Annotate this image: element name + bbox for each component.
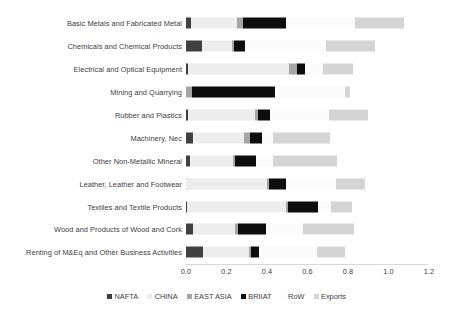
bar-row: Wood and Products of Wood and Cork [186,218,429,241]
stacked-bar [186,155,429,166]
bar-segment-row [259,247,317,258]
bar-segment-briiat [235,155,256,166]
plot-area: Basic Metals and Fabricated MetalChemica… [186,12,429,264]
stacked-bar [186,110,429,121]
bar-segment-briiat [251,247,260,258]
bar-segment-china [191,18,237,29]
legend-item-east-asia[interactable]: EAST ASIA [187,292,232,301]
bar-row: Other Non-Metallic Mineral [186,149,429,172]
bar-segment-china [188,64,289,75]
category-label: Wood and Products of Wood and Cork [54,225,182,234]
legend-label: BRIIAT [248,292,271,301]
legend-item-briiat[interactable]: BRIIAT [241,292,272,301]
category-label: Mining and Quarrying [110,88,182,97]
bar-segment-briiat [250,132,262,143]
bar-row: Textiles and Textile Products [186,195,429,218]
bar-segment-exports [331,201,352,212]
legend-swatch-icon [314,294,319,299]
x-axis-tick-labels: 0.00.20.40.60.81.01.2 [186,267,429,279]
stacked-bar-chart: Basic Metals and Fabricated MetalChemica… [0,0,453,319]
bar-segment-china [193,132,244,143]
bar-segment-row [245,41,326,52]
legend-swatch-icon [281,294,286,299]
category-label: Other Non-Metallic Mineral [93,156,182,165]
bar-segment-china [187,201,286,212]
bar-segment-china [202,41,231,52]
bar-segment-exports [303,224,354,235]
legend-item-row[interactable]: RoW [281,292,305,301]
bar-row: Rubber and Plastics [186,104,429,127]
legend-label: Exports [321,292,346,301]
bar-segment-china [188,110,255,121]
bar-row: Mining and Quarrying [186,81,429,104]
category-label: Renting of M&Eq and Other Business Activ… [26,248,182,257]
bar-row: Machinery, Nec [186,126,429,149]
bar-segment-exports [336,178,365,189]
x-tick-label: 0.8 [343,267,353,276]
category-label: Textiles and Textile Products [87,202,182,211]
bar-segment-briiat [288,201,318,212]
bar-segment-china [203,247,250,258]
stacked-bar [186,87,429,98]
bar-segment-row [262,132,273,143]
category-label: Chemicals and Chemical Products [67,42,182,51]
x-tick-label: 0.6 [302,267,312,276]
category-label: Rubber and Plastics [115,111,182,120]
x-tick-label: 0.2 [221,267,231,276]
bar-segment-briiat [192,87,275,98]
legend-swatch-icon [187,294,192,299]
bar-row: Chemicals and Chemical Products [186,35,429,58]
bar-segment-china [186,178,267,189]
bar-segment-exports [317,247,345,258]
category-label: Basic Metals and Fabricated Metal [67,19,182,28]
bar-segment-row [270,110,329,121]
legend-swatch-icon [241,294,246,299]
bar-row: Leather, Leather and Footwear [186,172,429,195]
legend-label: NAFTA [114,292,138,301]
bar-segment-row [305,64,323,75]
bar-segment-row [256,155,273,166]
bar-segment-nafta [186,247,203,258]
stacked-bar [186,132,429,143]
x-axis-line [186,264,429,265]
bar-segment-china [190,155,234,166]
bar-segment-nafta [186,132,193,143]
bar-segment-briiat [269,178,286,189]
category-label: Electrical and Optical Equipment [74,65,182,74]
bar-segment-nafta [186,41,202,52]
legend-swatch-icon [147,294,152,299]
legend-item-exports[interactable]: Exports [314,292,347,301]
bar-segment-row [286,178,336,189]
bar-segment-east-asia [289,64,297,75]
legend-item-nafta[interactable]: NAFTA [107,292,138,301]
chart-legend: NAFTACHINAEAST ASIABRIIATRoWExports [0,292,453,301]
stacked-bar [186,18,429,29]
bar-segment-briiat [258,110,270,121]
bar-segment-exports [323,64,353,75]
bar-segment-briiat [297,64,305,75]
bar-segment-briiat [238,224,265,235]
bar-row: Basic Metals and Fabricated Metal [186,12,429,35]
legend-label: EAST ASIA [194,292,232,301]
stacked-bar [186,64,429,75]
bar-segment-briiat [234,41,245,52]
legend-item-china[interactable]: CHINA [147,292,178,301]
legend-label: RoW [288,292,304,301]
bar-segment-exports [329,110,368,121]
x-tick-label: 1.0 [383,267,393,276]
category-label: Machinery, Nec [131,133,183,142]
bar-segment-row [318,201,331,212]
bar-segment-row [275,87,345,98]
bar-row: Electrical and Optical Equipment [186,58,429,81]
x-tick-label: 1.2 [424,267,434,276]
x-tick-label: 0.4 [262,267,272,276]
category-label: Leather, Leather and Footwear [79,179,182,188]
bar-segment-row [286,18,355,29]
bar-segment-exports [273,155,337,166]
stacked-bar [186,247,429,258]
stacked-bar [186,201,429,212]
stacked-bar [186,178,429,189]
bar-segment-briiat [243,18,287,29]
stacked-bar [186,41,429,52]
bar-segment-row [266,224,303,235]
